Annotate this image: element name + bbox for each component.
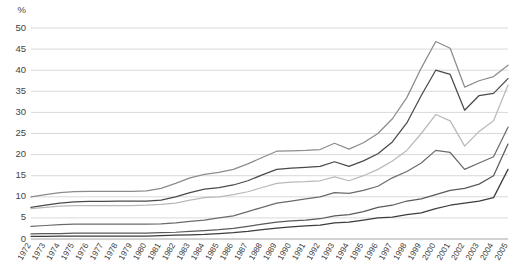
- x-axis-tick-label: 1987: [233, 241, 250, 262]
- y-axis-tick-label: 25: [15, 127, 26, 138]
- y-axis-tick-label: 30: [15, 106, 26, 117]
- x-axis-tick-label: 2002: [449, 241, 466, 262]
- y-axis-tick-label: 35: [15, 85, 26, 96]
- series-line-series-5: [31, 144, 508, 234]
- x-axis-tick-label: 1986: [218, 241, 235, 262]
- x-axis-tick-label: 1992: [305, 241, 322, 262]
- x-axis-tick-label: 1998: [392, 241, 409, 262]
- x-axis-tick-label: 1978: [103, 241, 120, 262]
- x-axis-tick-label: 1991: [290, 241, 307, 262]
- series-line-series-4: [31, 127, 508, 226]
- gridlines: [31, 28, 508, 239]
- x-axis-tick-label: 1996: [363, 241, 380, 262]
- series-line-series-3: [31, 85, 508, 209]
- y-axis-tick-label: 15: [15, 169, 26, 180]
- y-axis-tick-label: 5: [21, 211, 26, 222]
- x-axis-tick-label: 1976: [74, 241, 91, 262]
- x-axis-tick-label: 1988: [247, 241, 264, 262]
- x-axis-tick-label: 1989: [262, 241, 279, 262]
- x-axis-tick-label: 1984: [189, 241, 206, 262]
- x-axis-tick-label: 1995: [348, 241, 365, 262]
- x-axis-tick-label: 1974: [45, 241, 62, 262]
- x-axis-tick-label: 1999: [406, 241, 423, 262]
- y-axis-unit-label: %: [18, 4, 27, 15]
- series-line-series-1: [31, 42, 508, 197]
- x-axis-tick-label: 1990: [276, 241, 293, 262]
- x-axis-tick-label: 1981: [146, 241, 163, 262]
- x-axis-tick-label: 2001: [435, 241, 452, 262]
- y-axis-tick-label: 20: [15, 148, 26, 159]
- x-axis-tick-label: 1980: [131, 241, 148, 262]
- series-line-series-2: [31, 70, 508, 207]
- x-axis-tick-label: 1977: [88, 241, 105, 262]
- x-axis-tick-label: 1982: [160, 241, 177, 262]
- x-axis-tick-label: 1993: [319, 241, 336, 262]
- x-axis-tick-label: 2000: [421, 241, 438, 262]
- series-lines: [31, 42, 508, 237]
- y-axis-tick-label: 10: [15, 190, 26, 201]
- x-axis-tick-labels: 1972197319741975197619771978197919801981…: [16, 241, 510, 262]
- line-chart: 05101520253035404550 % 19721973197419751…: [0, 0, 516, 275]
- y-axis-tick-label: 50: [15, 22, 26, 33]
- x-axis-tick-label: 1979: [117, 241, 134, 262]
- y-axis-tick-label: 40: [15, 64, 26, 75]
- x-axis-tick-label: 1975: [59, 241, 76, 262]
- x-axis-tick-label: 2005: [493, 241, 510, 262]
- x-axis-tick-label: 2003: [464, 241, 481, 262]
- x-axis-tick-label: 1972: [16, 241, 33, 262]
- chart-canvas: 05101520253035404550 % 19721973197419751…: [0, 0, 516, 275]
- x-axis-tick-label: 1997: [377, 241, 394, 262]
- x-axis-tick-label: 1983: [175, 241, 192, 262]
- x-axis-tick-label: 2004: [478, 241, 495, 262]
- x-axis-tick-label: 1985: [204, 241, 221, 262]
- x-axis-tick-label: 1994: [334, 241, 351, 262]
- y-axis-tick-labels: 05101520253035404550: [15, 22, 26, 244]
- y-axis-tick-label: 45: [15, 43, 26, 54]
- x-axis-tick-label: 1973: [30, 241, 47, 262]
- series-line-series-6: [31, 169, 508, 236]
